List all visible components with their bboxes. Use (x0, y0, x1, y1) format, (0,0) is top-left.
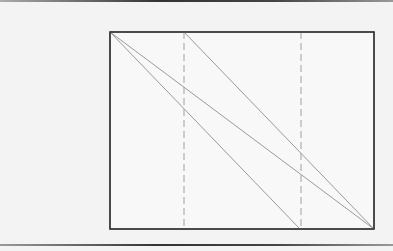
diagram-canvas (0, 0, 393, 251)
